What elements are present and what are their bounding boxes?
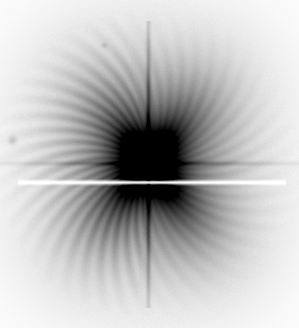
diffraction-image-figure bbox=[0, 0, 299, 328]
diffraction-pattern-canvas bbox=[0, 0, 299, 328]
